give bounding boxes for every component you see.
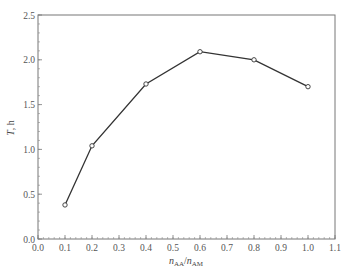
x-tick-label: 0.4	[140, 243, 152, 253]
data-point-marker	[198, 50, 202, 54]
data-point-marker	[63, 203, 67, 207]
x-tick-label: 0.0	[32, 243, 44, 253]
x-tick-label: 1.0	[302, 243, 314, 253]
x-tick-label: 0.5	[167, 243, 179, 253]
y-tick-label: 1.0	[23, 145, 35, 155]
y-tick-label: 0.0	[23, 235, 35, 245]
x-tick-label: 0.1	[59, 243, 71, 253]
data-point-marker	[306, 84, 310, 88]
y-tick-label: 2.0	[23, 55, 35, 65]
x-tick-label: 0.8	[248, 243, 260, 253]
y-tick-label: 2.5	[23, 11, 35, 21]
x-tick-label: 0.7	[221, 243, 233, 253]
plot-frame	[38, 15, 335, 239]
x-tick-label: 0.3	[113, 243, 125, 253]
line-chart: 0.00.10.20.30.40.50.60.70.80.91.01.1 0.0…	[0, 0, 348, 274]
y-axis-ticks: 0.00.51.01.52.02.5	[23, 11, 42, 245]
x-axis-ticks: 0.00.10.20.30.40.50.60.70.80.91.01.1	[32, 235, 341, 253]
y-axis-title: T, h	[5, 120, 16, 136]
y-tick-label: 1.5	[23, 100, 35, 110]
x-tick-label: 0.2	[86, 243, 98, 253]
data-point-marker	[144, 82, 148, 86]
data-series	[63, 50, 310, 208]
data-point-marker	[252, 58, 256, 62]
x-tick-label: 0.9	[275, 243, 287, 253]
x-tick-label: 0.6	[194, 243, 206, 253]
x-tick-label: 1.1	[329, 243, 341, 253]
data-point-marker	[90, 144, 94, 148]
series-line	[65, 52, 308, 205]
y-tick-label: 0.5	[23, 190, 35, 200]
x-axis-title: nAA/nAM	[169, 255, 204, 268]
